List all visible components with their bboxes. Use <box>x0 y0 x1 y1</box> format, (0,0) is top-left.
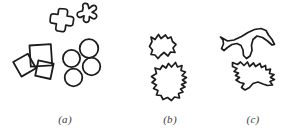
bird-silhouette-shape <box>233 62 275 90</box>
circle-shape-1 <box>80 39 99 58</box>
circle-shape-3 <box>83 58 101 76</box>
panel-b-caption: (b) <box>130 114 210 125</box>
panel-b-canvas <box>130 0 210 110</box>
shape-categories-figure: (a) (b) (c) <box>0 0 296 131</box>
blob-shape-small <box>150 35 177 59</box>
star-shape <box>77 3 97 22</box>
panel-c-canvas <box>210 0 296 110</box>
panel-a: (a) <box>0 0 130 131</box>
square-tilted-left-shape <box>13 54 36 77</box>
blob-shape-large <box>152 63 187 101</box>
square-tilted-right-shape <box>35 60 53 79</box>
circle-shape-2 <box>63 50 80 67</box>
panel-c-caption: (c) <box>210 114 296 125</box>
cross-shape <box>50 9 74 32</box>
panel-a-caption: (a) <box>0 114 130 125</box>
panel-a-canvas <box>0 0 130 110</box>
panel-c: (c) <box>210 0 296 131</box>
panel-b: (b) <box>130 0 210 131</box>
airplane-silhouette-shape <box>221 29 275 59</box>
circle-shape-4 <box>65 69 83 87</box>
